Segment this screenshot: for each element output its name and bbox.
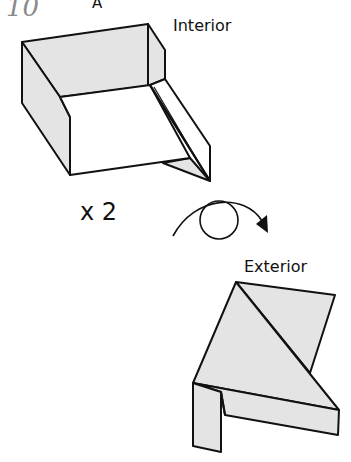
vertical-tab [193,383,221,452]
exterior-fold-figure [193,282,339,452]
turn-over-icon [173,201,268,239]
origami-diagram [0,0,351,462]
interior-fold-figure [22,24,210,181]
arrow-head-icon [256,215,268,233]
right-back-wall [148,24,165,86]
turn-over-arc [173,202,262,236]
